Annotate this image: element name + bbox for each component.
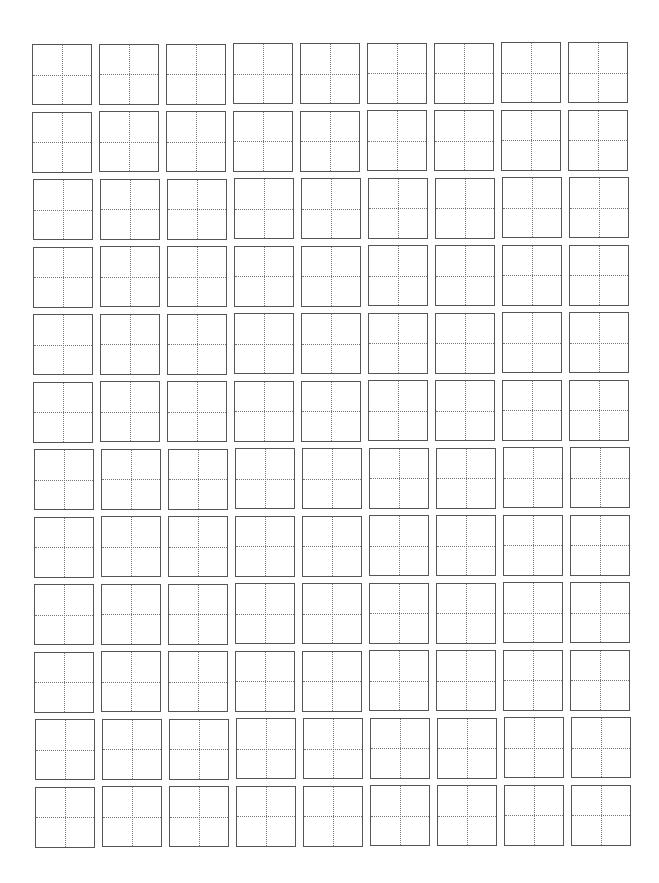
horizontal-guide-line (237, 749, 295, 750)
horizontal-guide-line (35, 547, 93, 548)
grid-cell (435, 178, 495, 239)
grid-cell (169, 719, 229, 780)
grid-cell (33, 314, 93, 375)
horizontal-guide-line (303, 614, 361, 615)
grid-cell (101, 651, 161, 712)
grid-cell (166, 111, 226, 172)
horizontal-guide-line (167, 142, 225, 143)
horizontal-guide-line (570, 410, 628, 411)
grid-cell (100, 381, 160, 442)
horizontal-guide-line (100, 74, 158, 75)
horizontal-guide-line (371, 748, 429, 749)
grid-cell (167, 381, 227, 442)
horizontal-guide-line (503, 275, 561, 276)
horizontal-guide-line (503, 343, 561, 344)
grid-cell (503, 582, 563, 643)
grid-cell (369, 583, 429, 644)
horizontal-guide-line (170, 817, 228, 818)
grid-cell (501, 42, 561, 103)
grid-cell (434, 43, 494, 104)
grid-cell (503, 515, 563, 576)
grid-cell (100, 179, 160, 240)
grid-cell (437, 785, 497, 846)
grid-cell (502, 177, 562, 238)
horizontal-guide-line (572, 748, 630, 749)
grid-cell (236, 718, 296, 779)
horizontal-guide-line (571, 545, 629, 546)
grid-cell (234, 246, 294, 307)
horizontal-guide-line (36, 750, 94, 751)
grid-cell (102, 719, 162, 780)
grid-cell (34, 517, 94, 578)
horizontal-guide-line (370, 478, 428, 479)
grid-cell (368, 380, 428, 441)
grid-cell (435, 245, 495, 306)
horizontal-guide-line (168, 344, 226, 345)
grid-cell (302, 516, 362, 577)
horizontal-guide-line (437, 546, 495, 547)
horizontal-guide-line (572, 815, 630, 816)
horizontal-guide-line (437, 681, 495, 682)
grid-cell (367, 43, 427, 104)
horizontal-guide-line (102, 682, 160, 683)
horizontal-guide-line (34, 345, 92, 346)
grid-cell (504, 785, 564, 846)
horizontal-guide-line (36, 817, 94, 818)
horizontal-guide-line (237, 816, 295, 817)
grid-cell (101, 449, 161, 510)
grid-cell (301, 381, 361, 442)
grid-cell (503, 447, 563, 508)
horizontal-guide-line (570, 208, 628, 209)
horizontal-guide-line (436, 411, 494, 412)
horizontal-guide-line (234, 74, 292, 75)
horizontal-guide-line (301, 74, 359, 75)
grid-cell (32, 112, 92, 173)
horizontal-guide-line (33, 75, 91, 76)
grid-cell (233, 111, 293, 172)
grid-cell (34, 584, 94, 645)
grid-cell (100, 246, 160, 307)
horizontal-guide-line (370, 681, 428, 682)
horizontal-guide-line (34, 412, 92, 413)
grid-cell (437, 718, 497, 779)
horizontal-guide-line (301, 141, 359, 142)
horizontal-guide-line (236, 681, 294, 682)
grid-cell (233, 43, 293, 104)
grid-cell (32, 44, 92, 105)
horizontal-guide-line (169, 614, 227, 615)
grid-cell (234, 178, 294, 239)
grid-cell (302, 448, 362, 509)
grid-cell (33, 247, 93, 308)
horizontal-guide-line (302, 276, 360, 277)
grid-cell (167, 179, 227, 240)
grid-cell (300, 111, 360, 172)
horizontal-guide-line (571, 680, 629, 681)
grid-cell (235, 448, 295, 509)
grid-cell (99, 44, 159, 105)
horizontal-guide-line (35, 682, 93, 683)
grid-cell (502, 380, 562, 441)
horizontal-guide-line (369, 276, 427, 277)
grid-cell (102, 786, 162, 847)
horizontal-guide-line (101, 412, 159, 413)
grid-cell (33, 382, 93, 443)
grid-cell (168, 449, 228, 510)
horizontal-guide-line (571, 613, 629, 614)
horizontal-guide-line (302, 344, 360, 345)
grid-cell (234, 381, 294, 442)
horizontal-guide-line (102, 547, 160, 548)
horizontal-guide-line (303, 681, 361, 682)
horizontal-guide-line (370, 613, 428, 614)
horizontal-guide-line (503, 208, 561, 209)
grid-cell (569, 245, 629, 306)
horizontal-guide-line (234, 141, 292, 142)
grid-cell (101, 584, 161, 645)
grid-cell (435, 380, 495, 441)
grid-cell (35, 787, 95, 848)
grid-cell (370, 785, 430, 846)
horizontal-guide-line (569, 73, 627, 74)
horizontal-guide-line (34, 210, 92, 211)
grid-cell (100, 314, 160, 375)
horizontal-guide-line (304, 749, 362, 750)
horizontal-guide-line (167, 74, 225, 75)
